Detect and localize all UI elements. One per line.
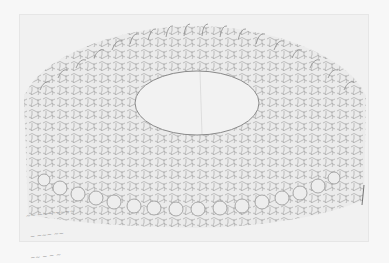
- inscription-line: ~ ~~~ ~~: [28, 228, 78, 240]
- inscription-line: ~~ ~ ~ ~: [30, 249, 80, 261]
- handwritten-inscription: ~~ ~~~ ~~~~ ~ ~~~ ~~ ~~ ~ ~ ~: [24, 193, 81, 263]
- inscription-line: ~~ ~~~ ~~~~: [25, 207, 75, 219]
- central-oval: [135, 71, 259, 135]
